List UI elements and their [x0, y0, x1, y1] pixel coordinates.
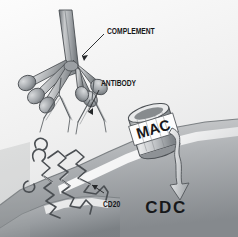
- cdc-label: CDC: [145, 198, 187, 217]
- complement-label: COMPLEMENT: [107, 26, 155, 36]
- cd20-label: CD20: [103, 199, 120, 209]
- left-shadow: [0, 142, 30, 237]
- illustration-canvas: MAC COMPLEMENT ANTIBODY CD20 CDC: [0, 0, 238, 237]
- c1q-collar: [64, 61, 78, 71]
- antibody-label: ANTIBODY: [101, 78, 136, 88]
- cdc-illustration: MAC COMPLEMENT ANTIBODY CD20 CDC: [0, 0, 238, 237]
